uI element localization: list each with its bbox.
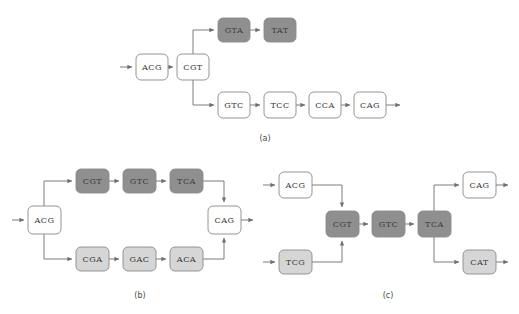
panel-label-c: (c) — [383, 291, 394, 300]
panel-label-b: (b) — [134, 291, 145, 300]
node-b-tca[interactable]: TCA — [170, 169, 203, 193]
edge-cgt-to-gtc — [193, 80, 214, 105]
edge-cgt-to-gta — [193, 30, 214, 54]
node-c-gtc[interactable]: GTC — [372, 211, 405, 237]
edge-c-tca-to-cag — [434, 185, 459, 211]
node-b-cag-label: CAG — [215, 215, 235, 225]
node-b-gtc-label: GTC — [130, 176, 149, 186]
edge-b-aca-to-cag — [203, 238, 224, 259]
node-a-cgt[interactable]: CGT — [177, 54, 209, 80]
node-c-tca-label: TCA — [425, 219, 444, 229]
node-b-gac-label: GAC — [130, 254, 150, 264]
panel-a: ACG CGT GTA TAT GTC TCC — [120, 18, 400, 143]
node-b-cga[interactable]: CGA — [76, 247, 109, 271]
node-a-tcc[interactable]: TCC — [264, 92, 296, 118]
node-a-tat-label: TAT — [271, 25, 288, 35]
node-c-acg[interactable]: ACG — [279, 172, 312, 198]
node-c-cat-label: CAT — [470, 257, 489, 267]
node-c-cag-label: CAG — [470, 180, 490, 190]
node-a-gtc-label: GTC — [224, 100, 243, 110]
node-c-tca[interactable]: TCA — [418, 211, 451, 237]
edge-b-tca-to-cag — [203, 181, 224, 202]
figure-root: ACG CGT GTA TAT GTC TCC — [0, 0, 519, 314]
edge-c-tcg-to-cgt — [312, 241, 342, 262]
node-a-cca[interactable]: CCA — [309, 92, 341, 118]
node-b-acg[interactable]: ACG — [28, 206, 61, 234]
node-a-cgt-label: CGT — [183, 62, 203, 72]
node-c-cag[interactable]: CAG — [463, 172, 496, 198]
sequence-graph-svg: ACG CGT GTA TAT GTC TCC — [0, 0, 519, 314]
node-b-cag[interactable]: CAG — [208, 206, 241, 234]
edge-b-acg-to-cga — [44, 234, 72, 259]
node-a-tat[interactable]: TAT — [264, 18, 296, 42]
edge-c-tca-to-cat — [434, 237, 459, 262]
node-a-cag[interactable]: CAG — [354, 92, 386, 118]
node-a-acg[interactable]: ACG — [136, 54, 168, 80]
node-c-gtc-label: GTC — [379, 219, 398, 229]
node-a-gta[interactable]: GTA — [218, 18, 250, 42]
node-c-acg-label: ACG — [285, 180, 306, 190]
node-b-cgt-label: CGT — [83, 176, 103, 186]
node-a-gtc[interactable]: GTC — [218, 92, 250, 118]
node-b-gtc[interactable]: GTC — [123, 169, 156, 193]
node-b-aca[interactable]: ACA — [170, 247, 203, 271]
node-a-tcc-label: TCC — [270, 100, 289, 110]
node-b-gac[interactable]: GAC — [123, 247, 156, 271]
panel-c: ACG TCG CGT GTC TCA CAG — [263, 172, 508, 300]
node-a-acg-label: ACG — [141, 62, 162, 72]
node-a-gta-label: GTA — [225, 25, 244, 35]
node-c-cat[interactable]: CAT — [463, 250, 496, 274]
panel-b: ACG CGT GTC TCA CGA GAC — [12, 169, 253, 300]
node-c-tcg-label: TCG — [286, 257, 305, 267]
node-b-cga-label: CGA — [83, 254, 103, 264]
node-c-cgt[interactable]: CGT — [326, 211, 359, 237]
node-c-tcg[interactable]: TCG — [279, 250, 312, 274]
node-a-cag-label: CAG — [360, 100, 380, 110]
node-b-aca-label: ACA — [176, 254, 196, 264]
edge-c-acg-to-cgt — [312, 185, 342, 207]
node-a-cca-label: CCA — [315, 100, 335, 110]
edge-b-acg-to-cgt — [44, 181, 72, 206]
node-b-acg-label: ACG — [34, 215, 55, 225]
panel-label-a: (a) — [259, 134, 270, 143]
node-b-cgt[interactable]: CGT — [76, 169, 109, 193]
node-b-tca-label: TCA — [177, 176, 196, 186]
node-c-cgt-label: CGT — [333, 219, 353, 229]
